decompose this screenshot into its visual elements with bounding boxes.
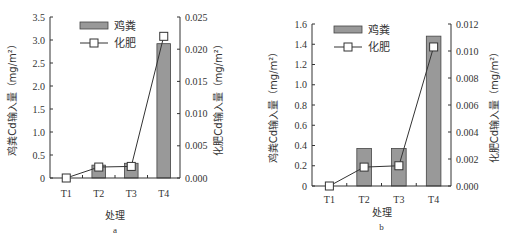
y-right-tick-label: 0.004	[456, 127, 479, 138]
line-marker-T4	[160, 32, 168, 40]
legend-label-bar: 鸡粪	[114, 19, 136, 33]
y-right-tick-label: 0.000	[185, 173, 208, 184]
y-tick-label: 1.4	[295, 39, 308, 50]
x-tick-label: T1	[324, 194, 335, 205]
legend-bar-swatch	[334, 26, 362, 33]
legend-label-bar: 鸡粪	[368, 23, 390, 37]
y-tick-label: 1.0	[33, 127, 46, 138]
y-tick-label: 1.6	[295, 19, 308, 30]
y-axis-title: 鸡粪Cd输入量（mg/m²）	[6, 39, 18, 156]
panel-label: b	[379, 222, 384, 232]
x-axis-title: 处理	[105, 210, 125, 221]
x-tick-label: T2	[93, 188, 104, 199]
y-axis-right-title: 化肥Cd输入量（mg/m²）	[488, 47, 500, 164]
legend-line-swatch	[90, 39, 98, 47]
line-marker-T3	[127, 162, 135, 170]
y-right-tick-label: 0.008	[456, 73, 479, 84]
y-tick-label: 0	[40, 173, 45, 184]
line-marker-T1	[62, 174, 70, 182]
chart-b: 00.20.40.60.81.01.21.41.60.0000.0020.004…	[267, 19, 500, 233]
x-tick-label: T1	[61, 188, 72, 199]
y-right-tick-label: 0.020	[185, 44, 208, 55]
legend-label-line: 化肥	[368, 40, 390, 54]
line-series	[329, 47, 433, 186]
y-right-tick-label: 0.006	[456, 100, 479, 111]
legend-label-line: 化肥	[114, 36, 136, 50]
y-axis-title: 鸡粪Cd输入量（mg/m²）	[267, 47, 279, 164]
y-tick-label: 0.8	[295, 100, 308, 111]
y-right-tick-label: 0.005	[185, 140, 208, 151]
y-right-tick-label: 0.002	[456, 154, 479, 165]
y-tick-label: 2.5	[33, 58, 46, 69]
y-tick-label: 2.0	[33, 81, 46, 92]
y-right-tick-label: 0.000	[456, 181, 479, 192]
line-marker-T2	[360, 163, 368, 171]
x-tick-label: T4	[428, 194, 439, 205]
x-tick-label: T2	[359, 194, 370, 205]
charts-canvas: 00.51.01.52.02.53.03.50.0000.0050.0100.0…	[0, 0, 517, 242]
x-tick-label: T4	[158, 188, 169, 199]
y-tick-label: 3.5	[33, 12, 46, 23]
y-tick-label: 1.0	[295, 79, 308, 90]
line-series	[66, 36, 164, 178]
x-tick-label: T3	[126, 188, 137, 199]
legend-line-swatch	[344, 43, 352, 51]
y-tick-label: 0.5	[33, 150, 46, 161]
y-tick-label: 1.2	[295, 59, 308, 70]
y-right-tick-label: 0.015	[185, 76, 208, 87]
y-right-tick-label: 0.012	[456, 19, 479, 30]
y-tick-label: 0.6	[295, 120, 308, 131]
y-tick-label: 3.0	[33, 35, 46, 46]
y-tick-label: 1.5	[33, 104, 46, 115]
x-axis-title: 处理	[372, 207, 392, 218]
y-right-tick-label: 0.010	[456, 46, 479, 57]
chart-a: 00.51.01.52.02.53.03.50.0000.0050.0100.0…	[6, 12, 224, 236]
line-marker-T3	[395, 162, 403, 170]
y-tick-label: 0.4	[295, 140, 308, 151]
y-right-tick-label: 0.010	[185, 108, 208, 119]
bar-T4	[157, 44, 171, 178]
y-right-tick-label: 0.025	[185, 12, 208, 23]
y-axis-right-title: 化肥Cd输入量（mg/m²）	[212, 39, 224, 156]
panel-label: a	[113, 225, 117, 235]
legend-bar-swatch	[80, 22, 108, 29]
line-marker-T4	[430, 43, 438, 51]
x-tick-label: T3	[393, 194, 404, 205]
y-tick-label: 0.2	[295, 160, 308, 171]
bar-T4	[426, 36, 441, 186]
line-marker-T2	[95, 163, 103, 171]
line-marker-T1	[325, 182, 333, 190]
y-tick-label: 0	[302, 181, 307, 192]
